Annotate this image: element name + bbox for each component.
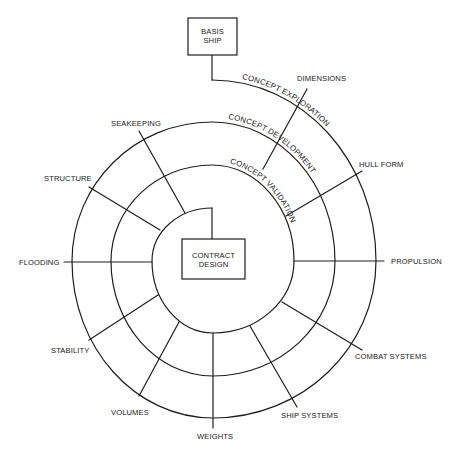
label-stability: STABILITY (51, 346, 89, 355)
design-spiral-diagram: BASIS SHIP CONTRACT DESIGN CONCEPT EXPLO… (0, 0, 457, 454)
basis-ship-box: BASIS SHIP (188, 18, 237, 55)
spoke-combat-systems (282, 302, 362, 350)
basis-ship-line2: SHIP (203, 36, 221, 45)
label-dimensions: DIMENSIONS (297, 74, 346, 83)
spoke-hull-form (286, 171, 362, 216)
spoke-ship-systems (250, 326, 297, 407)
contract-design-line2: DESIGN (199, 260, 229, 269)
label-hull-form: HULL FORM (359, 160, 404, 169)
contract-design-box: CONTRACT DESIGN (182, 239, 245, 279)
label-combat-systems: COMBAT SYSTEMS (355, 352, 427, 361)
label-structure: STRUCTURE (44, 174, 92, 183)
label-volumes: VOLUMES (111, 408, 149, 417)
ring-label-validation: CONCEPT VALIDATION (229, 157, 298, 224)
spoke-structure (89, 187, 160, 230)
label-flooding: FLOODING (19, 258, 59, 267)
contract-design-line1: CONTRACT (192, 251, 235, 260)
basis-ship-line1: BASIS (201, 27, 224, 36)
spoke-stability (89, 295, 158, 340)
label-propulsion: PROPULSION (391, 257, 442, 266)
label-ship-systems: SHIP SYSTEMS (281, 411, 338, 420)
label-seakeeping: SEAKEEPING (111, 119, 161, 128)
label-weights: WEIGHTS (197, 432, 233, 441)
spoke-volumes (139, 322, 179, 396)
spoke-seakeeping (139, 131, 185, 213)
